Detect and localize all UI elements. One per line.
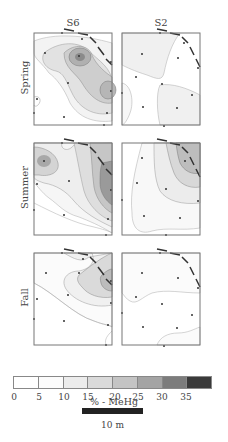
panel-s6-summer	[34, 143, 112, 235]
legend-bin-7	[186, 376, 212, 389]
panel-s2-spring	[122, 33, 200, 125]
contour-map	[34, 253, 112, 345]
legend-bin-5	[137, 376, 163, 389]
colorbar-units-label: % - MeHg	[0, 396, 228, 407]
row-label-spring: Spring	[19, 48, 30, 108]
legend-bin-1	[38, 376, 64, 389]
row-label-fall: Fall	[19, 268, 30, 328]
panel-s2-fall	[122, 253, 200, 345]
legend-bin-6	[162, 376, 188, 389]
column-title-s6: S6	[53, 17, 93, 28]
scale-bar-label: 10 m	[82, 420, 143, 430]
contour-map	[34, 33, 112, 125]
legend-bin-2	[63, 376, 89, 389]
scale-bar	[82, 408, 143, 414]
column-title-s2: S2	[141, 17, 181, 28]
row-label-summer: Summer	[19, 158, 30, 218]
contour-map	[122, 253, 200, 345]
contour-map	[122, 143, 200, 235]
legend-bin-0	[13, 376, 39, 389]
contour-map	[34, 143, 112, 235]
legend-bin-3	[87, 376, 113, 389]
panel-s6-fall	[34, 253, 112, 345]
colorbar-legend	[13, 376, 212, 389]
legend-bin-4	[112, 376, 138, 389]
panel-s2-summer	[122, 143, 200, 235]
panel-s6-spring	[34, 33, 112, 125]
contour-map	[122, 33, 200, 125]
